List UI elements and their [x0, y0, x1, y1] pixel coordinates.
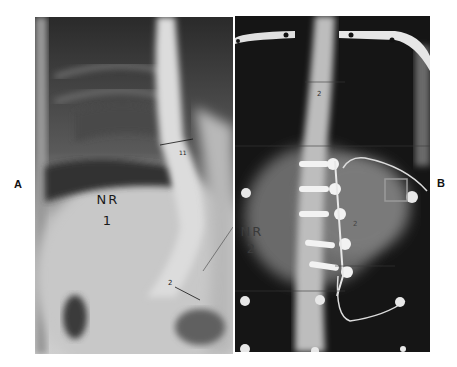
panel-b-annotation-line2: 2: [235, 241, 269, 256]
svg-text:11: 11: [179, 149, 187, 156]
xray-image-a: 11 2: [35, 17, 233, 354]
xray-panel-b: 2 2 NR 2: [235, 16, 430, 352]
svg-text:2: 2: [353, 220, 357, 228]
xray-image-b: 2 2: [235, 16, 430, 352]
panel-a-annotation-line1: NR: [88, 192, 128, 207]
xray-panel-a: 11 2 NR 1: [35, 17, 233, 354]
svg-text:2: 2: [168, 279, 172, 287]
panel-b-annotation: NR 2: [235, 224, 269, 256]
svg-text:2: 2: [317, 90, 321, 98]
panel-a-annotation-line2: 1: [88, 213, 128, 228]
panel-b-label: B: [437, 177, 445, 189]
panel-b-annotation-line1: NR: [235, 224, 269, 239]
panel-a-label: A: [14, 178, 22, 190]
panel-a-annotation: NR 1: [88, 192, 128, 228]
